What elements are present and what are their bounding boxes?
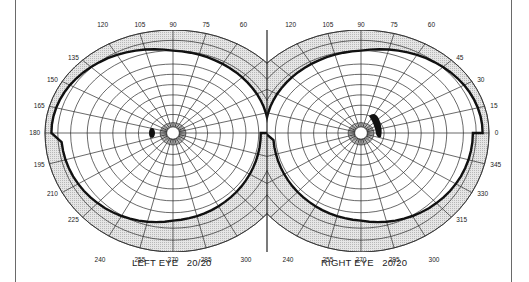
angle-label: 75 (202, 21, 210, 28)
angle-label: 120 (285, 21, 296, 28)
right-eye-label: RIGHT EYE 20/20 (321, 257, 407, 268)
angle-label: 210 (47, 190, 58, 197)
angle-label: 0 (495, 129, 499, 136)
angle-label: 120 (97, 21, 108, 28)
angle-label: 90 (169, 21, 177, 28)
angle-label: 300 (429, 256, 440, 263)
angle-label: 240 (283, 256, 294, 263)
angle-label: 240 (95, 256, 106, 263)
angle-label: 15 (490, 102, 498, 109)
angle-label: 165 (34, 102, 45, 109)
angle-label: 150 (47, 76, 58, 83)
angle-label: 180 (29, 129, 40, 136)
right-eye-field: 1201059075604530150345330315240255270285… (233, 21, 502, 263)
left-eye-label: LEFT EYE 20/20 (132, 257, 212, 268)
angle-label: 315 (456, 216, 467, 223)
angle-label: 135 (68, 54, 79, 61)
visual-field-chart: 1201059075601351501651801952102252402552… (0, 0, 529, 282)
angle-label: 300 (241, 256, 252, 263)
angle-label: 45 (456, 54, 464, 61)
angle-label: 105 (134, 21, 145, 28)
angle-label: 60 (240, 21, 248, 28)
angle-label: 30 (477, 76, 485, 83)
angle-label: 345 (490, 161, 501, 168)
angle-label: 75 (390, 21, 398, 28)
angle-label: 60 (428, 21, 436, 28)
left-eye-field: 1201059075601351501651801952102252402552… (29, 21, 301, 263)
angle-label: 105 (322, 21, 333, 28)
angle-label: 90 (357, 21, 365, 28)
angle-label: 330 (477, 190, 488, 197)
angle-label: 195 (34, 161, 45, 168)
angle-label: 225 (68, 216, 79, 223)
